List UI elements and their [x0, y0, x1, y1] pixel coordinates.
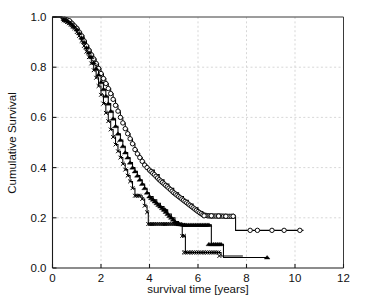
y-tick-label: 0.0	[31, 262, 47, 274]
censor-marker-open-circle	[101, 76, 105, 80]
survival-curve-group-x	[53, 17, 243, 256]
y-tick-label: 0.8	[31, 61, 47, 73]
censor-marker-open-circle	[202, 214, 206, 218]
censor-marker-open-circle	[128, 137, 132, 141]
x-tick-label: 0	[49, 272, 55, 284]
x-axis-title: survival time [years]	[147, 283, 249, 295]
y-tick-label: 1.0	[31, 11, 47, 23]
censor-marker-open-circle	[104, 81, 108, 85]
y-axis-title: Cumulative Survival	[6, 92, 18, 194]
y-tick-label: 0.6	[31, 111, 47, 123]
censor-marker-open-circle	[116, 109, 120, 113]
censor-marker-open-circle	[113, 103, 117, 107]
censor-marker-open-circle	[123, 126, 127, 130]
censor-marker-open-circle	[231, 214, 235, 218]
censor-marker-open-circle	[248, 228, 252, 232]
survival-chart-figure: 0246810120.00.20.40.60.81.0 survival tim…	[0, 0, 366, 301]
tick-labels-group: 0246810120.00.20.40.60.81.0	[31, 11, 350, 284]
censor-marker-open-circle	[224, 214, 228, 218]
censor-marker-open-circle	[130, 142, 134, 146]
censor-marker-open-circle	[111, 97, 115, 101]
censor-marker-open-circle	[209, 214, 213, 218]
censor-marker-open-circle	[118, 115, 122, 119]
censor-marker-open-circle	[133, 147, 137, 151]
y-tick-label: 0.2	[31, 212, 47, 224]
censor-marker-open-circle	[282, 228, 286, 232]
censor-markers-group	[61, 17, 302, 259]
chart-canvas: 0246810120.00.20.40.60.81.0 survival tim…	[0, 0, 366, 301]
x-tick-label: 2	[98, 272, 104, 284]
censor-marker-open-circle	[121, 121, 125, 125]
censor-marker-open-circle	[106, 86, 110, 90]
censor-marker-open-circle	[298, 228, 302, 232]
censor-marker-open-circle	[216, 214, 220, 218]
y-tick-label: 0.4	[31, 162, 48, 174]
censor-marker-open-circle	[270, 228, 274, 232]
censor-marker-open-circle	[125, 132, 129, 136]
x-tick-label: 12	[337, 272, 350, 284]
x-tick-label: 10	[289, 272, 302, 284]
censor-marker-open-circle	[109, 91, 113, 95]
censor-marker-open-circle	[255, 228, 259, 232]
